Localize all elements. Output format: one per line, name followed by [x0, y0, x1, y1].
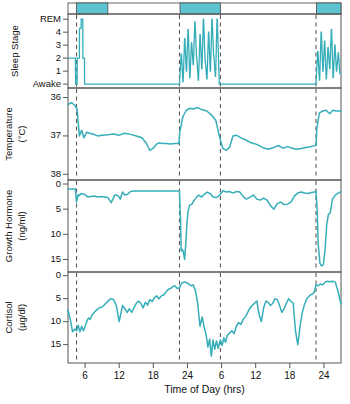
y-tick-label: 2 — [56, 52, 61, 63]
y-tick-label: 10 — [50, 315, 61, 326]
x-tick-label: 24 — [318, 370, 330, 381]
panel-growth-hormone: 151050 — [50, 178, 341, 272]
y-axis-title-unit: (ng/ml) — [16, 211, 27, 241]
y-axis-title-growth-hormone: Growth Hormone(ng/ml) — [3, 190, 27, 262]
y-tick-label: REM — [40, 13, 61, 24]
y-axis-title-sleep-stage: Sleep Stage — [9, 25, 20, 77]
y-tick-label: 1 — [56, 65, 61, 76]
y-axis-title-unit: (µg/dl) — [16, 304, 27, 331]
x-tick-label: 6 — [219, 370, 225, 381]
x-tick-label: 18 — [284, 370, 296, 381]
y-tick-label: 37 — [50, 129, 61, 140]
y-tick-label: 0 — [56, 269, 61, 280]
y-axis-title-temperature: Temperature(°C) — [3, 107, 27, 160]
y-tick-label: 3 — [56, 39, 61, 50]
y-axis-title-unit: (°C) — [16, 126, 27, 143]
sleep-period-bar-strip — [68, 3, 341, 14]
y-tick-label: 15 — [50, 338, 61, 349]
x-tick-label: 12 — [250, 370, 262, 381]
sleep-period-bar-3 — [317, 3, 341, 14]
data-trace-growth-hormone — [68, 189, 341, 266]
y-axis-title-cortisol: Cortisol(µg/dl) — [3, 301, 27, 333]
data-trace-cortisol — [68, 281, 341, 356]
chart-svg: Awake1234REM3837361510501510506121824612… — [0, 0, 350, 404]
x-tick-label: 12 — [114, 370, 126, 381]
y-axis-title-main: Sleep Stage — [9, 25, 20, 77]
y-tick-label: 15 — [50, 253, 61, 264]
y-axis-title-main: Growth Hormone — [3, 190, 14, 262]
y-tick-label: 5 — [56, 292, 61, 303]
x-tick-label: 24 — [182, 370, 194, 381]
y-tick-label: 0 — [56, 178, 61, 189]
y-tick-label: 36 — [50, 91, 61, 102]
x-axis-title: Time of Day (hrs) — [164, 383, 245, 395]
y-axis-title-main: Temperature — [3, 107, 14, 160]
y-axis-title-main: Cortisol — [3, 301, 14, 333]
x-tick-label: 18 — [148, 370, 160, 381]
sleep-period-bar-2 — [180, 3, 220, 14]
sleep-period-bar-1 — [77, 3, 108, 14]
panel-temperature: 383736 — [50, 88, 341, 180]
y-tick-label: 4 — [56, 26, 61, 37]
data-trace-temperature — [68, 103, 341, 151]
data-trace-sleep-stage — [68, 19, 341, 84]
panel-sleep-stage: Awake1234REM — [33, 13, 341, 89]
panel-frame — [68, 272, 341, 363]
circadian-rhythm-figure: Awake1234REM3837361510501510506121824612… — [0, 0, 350, 404]
x-axis: 61218246121824Time of Day (hrs) — [82, 363, 330, 395]
y-tick-label: 10 — [50, 228, 61, 239]
panel-cortisol: 151050 — [50, 269, 341, 363]
x-tick-label: 6 — [82, 370, 88, 381]
y-tick-label: 5 — [56, 203, 61, 214]
y-tick-label: Awake — [33, 78, 61, 89]
